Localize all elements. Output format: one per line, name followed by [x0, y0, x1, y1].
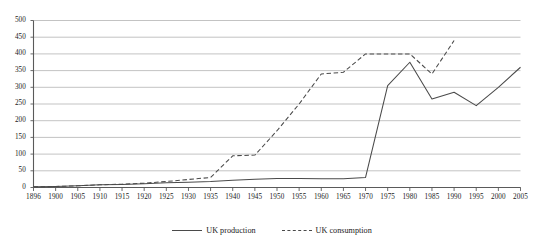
- y-axis-tick-label: 350: [0, 67, 26, 74]
- gridlines: [34, 21, 521, 188]
- legend-label: UK consumption: [316, 226, 372, 235]
- y-axis-tick-label: 500: [0, 17, 26, 24]
- series-line-1: [34, 62, 521, 187]
- data-series-layer: [34, 41, 521, 187]
- y-axis-tick-label: 400: [0, 50, 26, 57]
- y-axis-tick-label: 150: [0, 134, 26, 141]
- legend-item-2: UK consumption: [282, 226, 372, 235]
- legend-label: UK production: [206, 226, 255, 235]
- chart-legend: UK productionUK consumption: [0, 226, 544, 235]
- y-axis-tick-label: 50: [0, 167, 26, 174]
- chart-container: 050100150200250300350400450500 189619001…: [0, 0, 544, 249]
- y-axis-tick-label: 250: [0, 100, 26, 107]
- legend-item-1: UK production: [172, 226, 255, 235]
- x-axis-tick-label: 2005: [508, 194, 534, 201]
- y-axis-tick-label: 100: [0, 151, 26, 158]
- chart-plot-area: [0, 0, 544, 249]
- y-axis-tick-label: 200: [0, 117, 26, 124]
- y-axis-tick-label: 0: [0, 184, 26, 191]
- y-axis-tick-label: 450: [0, 34, 26, 41]
- solid-line-icon: [172, 230, 202, 231]
- series-line-2: [34, 41, 455, 187]
- y-axis-tick-label: 300: [0, 84, 26, 91]
- dashed-line-icon: [282, 230, 312, 231]
